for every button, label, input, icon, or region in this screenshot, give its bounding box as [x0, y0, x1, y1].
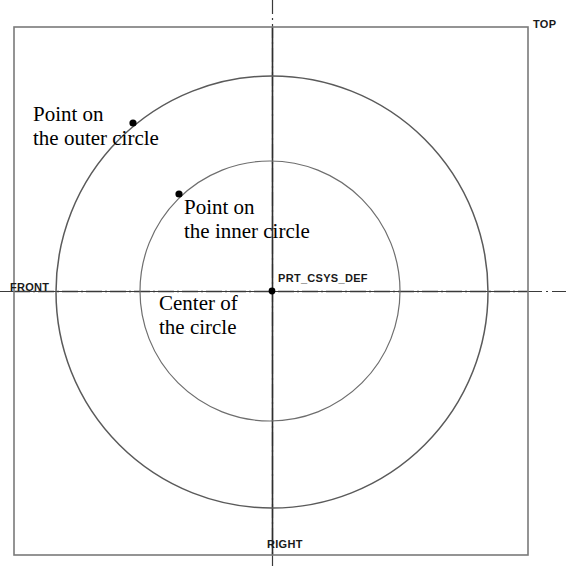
- inner-circle-point-marker[interactable]: [175, 190, 182, 197]
- cad-drawing-canvas: Point on the outer circle Point on the i…: [0, 0, 569, 570]
- csys-label: PRT_CSYS_DEF: [278, 272, 368, 284]
- datum-label-front: FRONT: [10, 281, 49, 293]
- center-point-marker[interactable]: [269, 288, 276, 295]
- technical-drawing-svg: [0, 0, 569, 570]
- annotation-inner-circle-point: Point on the inner circle: [184, 196, 310, 243]
- datum-label-top: TOP: [533, 18, 556, 30]
- annotation-circle-center: Center of the circle: [159, 292, 238, 339]
- datum-label-right: RIGHT: [267, 538, 303, 550]
- annotation-outer-circle-point: Point on the outer circle: [33, 103, 159, 150]
